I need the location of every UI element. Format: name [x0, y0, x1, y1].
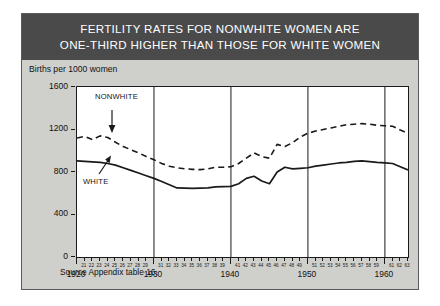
x-tick-1941	[238, 257, 239, 261]
y-tick-1200	[71, 129, 75, 130]
x-tick-1954	[338, 257, 339, 261]
x-tick-1949	[299, 257, 300, 261]
x-tick-1946	[276, 257, 277, 261]
chart-title-line-1: FERTILITY RATES FOR NONWHITE WOMEN ARE	[80, 21, 359, 37]
series-label-white: WHITE	[83, 177, 108, 186]
x-tick-1950	[307, 257, 308, 264]
x-tick-1930	[153, 257, 154, 264]
series-label-nonwhite: NONWHITE	[95, 92, 138, 101]
chart-title-line-2: ONE-THIRD HIGHER THAN THOSE FOR WHITE WO…	[60, 37, 380, 53]
x-tick-1957	[361, 257, 362, 261]
x-tick-1938	[215, 257, 216, 261]
x-tick-1931	[161, 257, 162, 261]
x-tick-1936	[199, 257, 200, 261]
y-tick-0	[71, 256, 75, 257]
x-tick-label-1958: 58	[366, 263, 371, 268]
x-tick-1952	[322, 257, 323, 261]
x-tick-1939	[222, 257, 223, 261]
x-tick-1920	[76, 257, 77, 264]
x-decade-label-1940: 1940	[221, 269, 240, 279]
source-note: Source Appendix table 16.	[60, 267, 158, 277]
x-tick-1935	[191, 257, 192, 261]
y-tick-label-1200: 1200	[38, 123, 68, 133]
x-tick-label-1944: 44	[258, 263, 263, 268]
x-tick-1924	[107, 257, 108, 261]
x-tick-1961	[392, 257, 393, 261]
y-tick-800	[71, 171, 75, 172]
x-tick-label-1946: 46	[274, 263, 279, 268]
x-tick-1953	[330, 257, 331, 261]
x-tick-1937	[207, 257, 208, 261]
x-tick-1955	[345, 257, 346, 261]
plot-area: NONWHITE WHITE	[76, 86, 409, 258]
x-tick-1921	[84, 257, 85, 261]
x-tick-1951	[315, 257, 316, 261]
x-tick-label-1941: 41	[235, 263, 240, 268]
y-tick-1600	[71, 86, 75, 87]
x-tick-label-1948: 48	[289, 263, 294, 268]
x-tick-1956	[353, 257, 354, 261]
x-tick-label-1956: 56	[351, 263, 356, 268]
y-tick-label-400: 400	[38, 208, 68, 218]
x-tick-1928	[138, 257, 139, 261]
x-tick-label-1952: 52	[320, 263, 325, 268]
x-tick-label-1955: 55	[343, 263, 348, 268]
x-tick-label-1934: 34	[181, 263, 186, 268]
x-tick-1922	[91, 257, 92, 261]
x-tick-1958	[369, 257, 370, 261]
x-tick-label-1961: 61	[389, 263, 394, 268]
chart-title: FERTILITY RATES FOR NONWHITE WOMEN ARE O…	[22, 14, 418, 60]
x-tick-1962	[399, 257, 400, 261]
x-tick-1926	[122, 257, 123, 261]
chart-lines	[77, 87, 408, 257]
y-axis-caption: Births per 1000 women	[29, 64, 117, 74]
x-tick-label-1959: 59	[374, 263, 379, 268]
x-tick-1934	[184, 257, 185, 261]
x-tick-1923	[99, 257, 100, 261]
x-tick-1929	[145, 257, 146, 261]
x-tick-label-1957: 57	[358, 263, 363, 268]
x-tick-1942	[245, 257, 246, 261]
x-tick-1945	[268, 257, 269, 261]
x-tick-1943	[253, 257, 254, 261]
x-tick-label-1932: 32	[166, 263, 171, 268]
x-tick-label-1953: 53	[327, 263, 332, 268]
x-tick-label-1933: 33	[174, 263, 179, 268]
figure-panel: FERTILITY RATES FOR NONWHITE WOMEN ARE O…	[21, 13, 419, 290]
x-tick-1933	[176, 257, 177, 261]
x-tick-label-1949: 49	[297, 263, 302, 268]
x-tick-label-1947: 47	[281, 263, 286, 268]
x-tick-label-1954: 54	[335, 263, 340, 268]
y-tick-label-0: 0	[38, 251, 68, 261]
y-tick-label-1600: 1600	[38, 81, 68, 91]
x-tick-label-1938: 38	[212, 263, 217, 268]
x-tick-1963	[407, 257, 408, 261]
x-tick-1944	[261, 257, 262, 261]
y-tick-label-800: 800	[38, 166, 68, 176]
x-decade-label-1950: 1950	[298, 269, 317, 279]
series-line-white	[77, 161, 408, 189]
x-tick-1940	[230, 257, 231, 264]
x-tick-label-1939: 39	[220, 263, 225, 268]
x-tick-label-1945: 45	[266, 263, 271, 268]
x-decade-label-1960: 1960	[375, 269, 394, 279]
x-tick-label-1962: 62	[397, 263, 402, 268]
x-tick-label-1963: 63	[404, 263, 409, 268]
series-line-nonwhite	[77, 124, 408, 170]
x-tick-1948	[292, 257, 293, 261]
x-tick-1947	[284, 257, 285, 261]
x-tick-1932	[168, 257, 169, 261]
x-tick-label-1936: 36	[197, 263, 202, 268]
x-tick-label-1935: 35	[189, 263, 194, 268]
x-tick-1927	[130, 257, 131, 261]
x-tick-label-1937: 37	[204, 263, 209, 268]
x-tick-label-1931: 31	[158, 263, 163, 268]
x-tick-label-1943: 43	[250, 263, 255, 268]
decade-gridlines	[154, 87, 385, 257]
x-tick-label-1942: 42	[243, 263, 248, 268]
x-tick-label-1951: 51	[312, 263, 317, 268]
x-tick-1960	[384, 257, 385, 264]
x-tick-1959	[376, 257, 377, 261]
y-tick-400	[71, 214, 75, 215]
x-tick-1925	[114, 257, 115, 261]
